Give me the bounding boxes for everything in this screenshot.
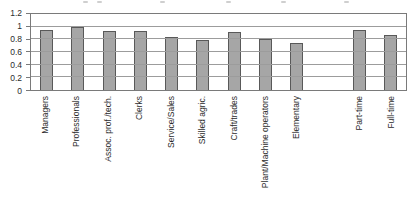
y-axis-tick-label: 1.2 [10,9,22,18]
bar-assoc-prof-tech [103,31,116,90]
bar-part-time [353,30,366,90]
x-axis-label: Service/Sales [167,96,176,148]
x-axis-label: Part-time [355,96,364,130]
bar-managers [40,30,53,90]
bar-elementary [290,43,303,91]
x-axis-label: Plant/Machine operators [261,96,270,188]
x-label-slot: Clerks [124,96,155,212]
x-axis-labels: ManagersProfessionalsAssoc. prof./tech.C… [30,96,407,212]
cropped-text-remnant [83,1,88,3]
bar-craft-trades [228,32,241,90]
x-label-slot: Professionals [61,96,92,212]
gridline [31,76,406,77]
x-axis-label: Clerks [135,96,144,120]
bar-chart-figure: 00.20.40.60.811.2 ManagersProfessionalsA… [0,0,415,213]
x-label-slot: Full-time [376,96,407,212]
x-label-slot: Assoc. prof./tech. [93,96,124,212]
x-axis-label: Elementary [292,96,301,139]
cropped-text-remnant [97,1,102,3]
x-axis-label: Assoc. prof./tech. [104,96,113,162]
x-label-slot: Craft/trades [219,96,250,212]
x-axis-label: Craft/trades [230,96,239,140]
x-axis-label: Professionals [72,96,81,147]
cropped-text-remnant [226,1,231,3]
y-axis-tick-label: 0 [17,87,22,96]
bar-skilled-agric [196,40,209,90]
x-label-slot: Part-time [344,96,375,212]
x-label-slot: Skilled agric. [187,96,218,212]
gridline [31,38,406,39]
bar-clerks [134,31,147,90]
gridline [31,51,406,52]
bar-professionals [71,27,84,90]
plot-area [30,13,407,91]
category-group-gap [313,96,344,212]
x-label-slot: Plant/Machine operators [250,96,281,212]
y-axis-tick-label: 0.4 [10,61,22,70]
gridline [31,64,406,65]
y-axis-tick-label: 1 [17,22,22,31]
x-axis-label: Managers [41,96,50,134]
x-label-slot: Managers [30,96,61,212]
cropped-text-remnant [344,1,349,3]
cropped-text-remnant [281,1,286,3]
y-axis-tick-label: 0.6 [10,48,22,57]
cropped-text-remnant [160,1,165,3]
x-label-slot: Service/Sales [156,96,187,212]
y-axis: 00.20.40.60.811.2 [0,13,30,91]
x-label-slot: Elementary [281,96,312,212]
y-axis-tick-label: 0.2 [10,74,22,83]
gridline [31,26,406,27]
x-axis-label: Skilled agric. [198,96,207,144]
y-axis-tick-label: 0.8 [10,35,22,44]
x-axis-label: Full-time [387,96,396,129]
bar-full-time [384,35,397,90]
